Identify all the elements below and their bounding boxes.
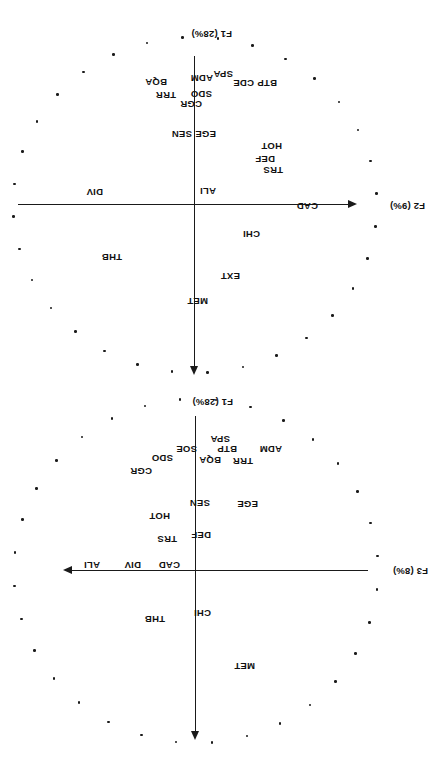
variable-label: TRR (156, 91, 176, 101)
figure-sheet: F3 (8%) F1 (28%) METTHBCHICADDIVALIDEFTR… (0, 0, 438, 759)
x-axis-label-f3: F3 (8%) (393, 567, 428, 577)
variable-label: DEF (191, 531, 211, 541)
circle-marker-dot (13, 585, 16, 588)
circle-marker-dot (171, 370, 174, 373)
variable-label: MET (234, 662, 255, 672)
circle-marker-dot (33, 649, 36, 652)
variable-label: ALI (200, 187, 216, 197)
circle-marker-dot (140, 734, 143, 737)
variable-label: EGE (195, 130, 216, 140)
x-axis-label-f2: F2 (9%) (390, 202, 425, 212)
variable-label: HOT (261, 142, 282, 152)
variable-label: CDE (233, 79, 254, 89)
variable-label: SOE (176, 445, 197, 455)
circle-marker-dot (337, 462, 340, 465)
circle-marker-dot (356, 490, 359, 493)
variable-label: SEN (172, 130, 192, 140)
circle-marker-dot (312, 438, 315, 441)
variable-label: SDO (152, 454, 174, 464)
circle-marker-dot (146, 42, 149, 45)
circle-marker-dot (111, 417, 114, 420)
variable-label: TRS (263, 166, 283, 176)
circle-marker-dot (50, 307, 53, 310)
variable-label: CAD (297, 202, 318, 212)
circle-marker-dot (282, 419, 285, 422)
circle-marker-dot (13, 183, 16, 186)
circle-marker-dot (113, 53, 116, 56)
circle-marker-dot (366, 257, 369, 260)
x-axis-line-f3 (70, 570, 368, 571)
circle-marker-dot (352, 287, 355, 290)
circle-marker-dot (103, 350, 106, 353)
y-axis-label-f1-b: F1 (28%) (191, 30, 232, 40)
chart-panel-f1-f2: F2 (9%) F1 (28%) METEXTTHBCHICADALIDIVTR… (0, 0, 438, 379)
x-axis-arrowhead-f2 (348, 201, 357, 209)
circle-marker-dot (246, 735, 249, 738)
circle-marker-dot (14, 551, 17, 554)
circle-marker-dot (217, 37, 220, 40)
circle-marker-dot (206, 371, 209, 374)
circle-marker-dot (313, 77, 316, 80)
circle-marker-dot (136, 363, 139, 366)
circle-marker-dot (20, 618, 23, 621)
variable-label: SEN (190, 499, 210, 509)
circle-marker-dot (309, 704, 312, 707)
variable-label: HOT (149, 512, 170, 522)
circle-marker-dot (21, 150, 24, 153)
circle-marker-dot (179, 398, 182, 401)
variable-label: CAD (159, 561, 180, 571)
circle-marker-dot (36, 120, 39, 123)
variable-label: CHI (243, 230, 260, 240)
circle-marker-dot (181, 36, 184, 39)
circle-marker-dot (368, 621, 371, 624)
circle-marker-dot (374, 225, 377, 228)
variable-label: SDO (191, 90, 213, 100)
variable-label: MET (187, 297, 208, 307)
circle-marker-dot (35, 487, 38, 490)
variable-label: SPA (210, 435, 230, 445)
circle-marker-dot (249, 406, 252, 409)
circle-marker-dot (305, 337, 308, 340)
circle-marker-dot (56, 94, 59, 97)
circle-marker-dot (31, 279, 34, 282)
variable-label: BQA (145, 78, 167, 88)
variable-label: EGE (237, 500, 258, 510)
circle-marker-dot (74, 331, 77, 334)
y-axis-label-f1: F1 (28%) (192, 398, 233, 408)
circle-marker-dot (211, 741, 214, 744)
circle-marker-dot (376, 588, 379, 591)
variable-label: ADM (259, 445, 282, 455)
circle-marker-dot (107, 721, 110, 724)
variable-label: CGR (130, 467, 152, 477)
variable-label: TRR (233, 457, 253, 467)
circle-marker-dot (144, 405, 147, 408)
variable-label: ADM (190, 74, 213, 84)
variable-label: CGR (180, 100, 202, 110)
variable-label: BTP (217, 445, 237, 455)
circle-marker-dot (55, 459, 58, 462)
variable-label: CHI (194, 609, 211, 619)
circle-marker-dot (331, 314, 334, 317)
circle-marker-dot (357, 129, 360, 132)
circle-marker-dot (12, 215, 15, 218)
circle-marker-dot (354, 652, 357, 655)
y-axis-arrowhead-f1-b (191, 366, 199, 375)
variable-label: TRS (157, 535, 177, 545)
circle-marker-dot (369, 160, 372, 163)
chart-panel-f1-f3: F3 (8%) F1 (28%) METTHBCHICADDIVALIDEFTR… (0, 379, 438, 759)
circle-marker-dot (242, 366, 245, 369)
circle-marker-dot (375, 192, 378, 195)
circle-marker-dot (338, 101, 341, 104)
variable-label: THB (102, 253, 122, 263)
y-axis-arrowhead-f1 (192, 731, 200, 740)
circle-marker-dot (53, 677, 56, 680)
variable-label: BQA (199, 456, 221, 466)
circle-marker-dot (275, 354, 278, 357)
circle-marker-dot (279, 722, 282, 725)
circle-marker-dot (78, 701, 81, 704)
variable-label: THB (145, 615, 165, 625)
variable-label: DEF (255, 155, 275, 165)
circle-marker-dot (284, 58, 287, 61)
variable-label: DIV (124, 561, 141, 571)
circle-marker-dot (18, 248, 21, 251)
